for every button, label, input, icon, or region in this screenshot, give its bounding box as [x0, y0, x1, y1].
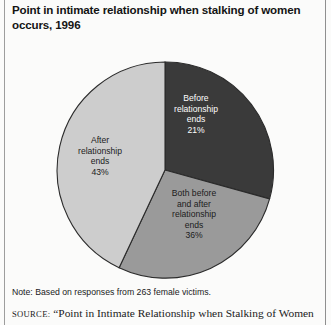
pie-label-before-relationship-ends: Before relationship ends 21%: [158, 93, 234, 135]
pie-label-after-relationship-ends: After relationship ends 43%: [60, 135, 140, 177]
pie-chart: Before relationship ends 21% Both before…: [0, 0, 331, 290]
chart-source: SOURCE: “Point in Intimate Relationship …: [12, 307, 324, 322]
chart-note: Note: Based on responses from 263 female…: [12, 287, 317, 298]
source-label: SOURCE:: [12, 309, 50, 319]
source-text: “Point in Intimate Relationship when Sta…: [53, 307, 314, 319]
pie-label-both-before-and-after: Both before and after relationship ends …: [152, 188, 236, 241]
scanned-page: Point in intimate relationship when stal…: [0, 0, 331, 325]
